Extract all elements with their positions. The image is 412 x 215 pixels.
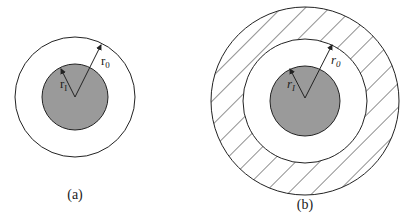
figure-canvas: r0 rI (a) r0 rI (b) <box>0 0 412 215</box>
caption-a: (a) <box>67 187 83 203</box>
panel-a: r0 rI (a) <box>15 37 135 203</box>
panel-b: r0 rI (b) <box>211 7 399 213</box>
core-circle <box>270 66 340 136</box>
caption-b: (b) <box>297 197 314 213</box>
